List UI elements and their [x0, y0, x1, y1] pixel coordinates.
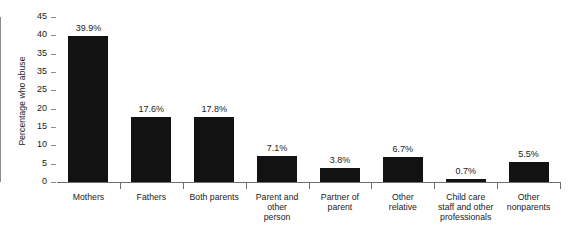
x-axis-tick-mark [246, 183, 247, 189]
category-label-line: Mothers [53, 192, 124, 202]
category-label-line: relative [367, 202, 438, 212]
y-axis-tick-mark [51, 145, 56, 146]
category-label-line: Fathers [116, 192, 187, 202]
bar [509, 162, 549, 182]
x-axis-category-label: Fathers [116, 192, 187, 202]
bar [257, 156, 297, 182]
category-label-line: other [242, 202, 313, 212]
y-axis-tick-mark [51, 35, 56, 36]
category-label-line: Parent and [242, 192, 313, 202]
y-axis-tick-label: 25 [0, 84, 47, 94]
bar-value-label: 0.7% [436, 166, 496, 176]
category-label-line: Other [367, 192, 438, 202]
x-axis-category-label: Mothers [53, 192, 124, 202]
y-axis-tick-label: 40 [0, 29, 47, 39]
y-axis-tick-label: 5 [0, 158, 47, 168]
y-axis-tick-label: 45 [0, 11, 47, 21]
y-axis-tick-label: 0 [0, 176, 47, 186]
x-axis-tick-mark [560, 183, 561, 189]
bar-value-label: 17.8% [184, 104, 244, 114]
y-axis-tick-mark [51, 182, 56, 183]
x-axis-tick-mark [497, 183, 498, 189]
category-label-line: professionals [430, 212, 501, 222]
bar-value-label: 5.5% [499, 149, 559, 159]
bar [131, 117, 171, 182]
y-axis-tick-label: 35 [0, 66, 47, 76]
category-label-line: nonparents [493, 202, 564, 212]
y-axis-tick-mark [51, 127, 56, 128]
category-label-line: Partner of [305, 192, 376, 202]
x-axis-category-label: Parent andotherperson [242, 192, 313, 223]
x-axis-category-label: Child carestaff and otherprofessionals [430, 192, 501, 223]
x-axis-category-label: Partner ofparent [305, 192, 376, 212]
x-axis-tick-mark [120, 183, 121, 189]
bar-value-label: 39.9% [58, 23, 118, 33]
y-axis-tick-mark [51, 72, 56, 73]
y-axis-tick-mark [51, 90, 56, 91]
bar-value-label: 6.7% [373, 144, 433, 154]
bar [383, 157, 423, 182]
bar-chart: Percentage who abuse 454035352520151050 … [0, 0, 584, 243]
x-axis-category-label: Both parents [179, 192, 250, 202]
bar [194, 117, 234, 182]
bar [320, 168, 360, 182]
x-axis-tick-mark [371, 183, 372, 189]
bar [446, 179, 486, 182]
y-axis-tick-label: 10 [0, 139, 47, 149]
x-axis-category-label: Othernonparents [493, 192, 564, 212]
bar [68, 36, 108, 182]
y-axis-tick-label: 35 [0, 48, 47, 58]
x-axis-tick-mark [183, 183, 184, 189]
y-axis-tick-mark [51, 54, 56, 55]
y-axis-tick-label: 20 [0, 103, 47, 113]
x-axis-tick-mark [309, 183, 310, 189]
bar-value-label: 17.6% [121, 104, 181, 114]
category-label-line: Child care [430, 192, 501, 202]
y-axis-tick-mark [51, 109, 56, 110]
x-axis-tick-mark [434, 183, 435, 189]
y-axis-tick-label: 15 [0, 121, 47, 131]
category-label-line: Other [493, 192, 564, 202]
bar-value-label: 3.8% [310, 155, 370, 165]
category-label-line: parent [305, 202, 376, 212]
bar-value-label: 7.1% [247, 143, 307, 153]
y-axis-tick-mark [51, 17, 56, 18]
y-axis-tick-mark [51, 164, 56, 165]
category-label-line: staff and other [430, 202, 501, 212]
category-label-line: Both parents [179, 192, 250, 202]
category-label-line: person [242, 212, 313, 222]
x-axis-category-label: Otherrelative [367, 192, 438, 212]
